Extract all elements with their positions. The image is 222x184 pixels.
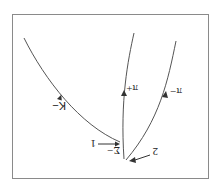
k-minus-label: K− bbox=[52, 100, 66, 112]
decay-diagram: K− π+ π− Σ− 1 2 bbox=[0, 0, 222, 184]
k-minus-track bbox=[24, 38, 120, 142]
pi-plus-arrow-icon bbox=[121, 90, 127, 96]
pi-minus-track bbox=[126, 41, 176, 160]
pi-plus-label: π+ bbox=[126, 83, 138, 95]
vertex-2-pointer bbox=[135, 155, 150, 160]
pi-minus-label: π− bbox=[170, 86, 182, 98]
vertex-2-arrow-icon bbox=[129, 157, 136, 163]
vertex-2-label: 2 bbox=[153, 146, 159, 158]
vertex-1-label: 1 bbox=[91, 138, 97, 150]
sigma-minus-label: Σ− bbox=[107, 145, 120, 157]
